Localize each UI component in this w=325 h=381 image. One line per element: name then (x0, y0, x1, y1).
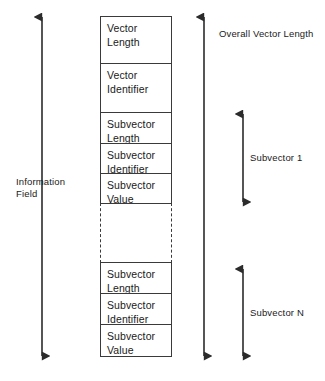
cell-subvector-n-length-line1: Subvector (107, 268, 171, 282)
cell-subvector-n-identifier: Subvector Identifier (100, 293, 172, 325)
label-subvector-n-line1: Subvector N (250, 307, 304, 319)
cell-continuation-gap (100, 203, 172, 263)
cell-vector-identifier-line1: Vector (107, 69, 171, 83)
label-information-field-line1: Information (16, 176, 65, 188)
cell-subvector-1-identifier: Subvector Identifier (100, 143, 172, 174)
label-overall-vector-length: Overall Vector Length (219, 28, 314, 40)
cell-vector-identifier: Vector Identifier (100, 63, 172, 113)
cell-subvector-n-identifier-line1: Subvector (107, 299, 171, 313)
cell-subvector-1-value-line1: Subvector (107, 179, 171, 193)
cell-vector-length-line1: Vector (107, 22, 171, 36)
cell-subvector-n-length: Subvector Length (100, 262, 172, 294)
cell-subvector-1-length-line1: Subvector (107, 118, 171, 132)
cell-subvector-n-value-line2: Value (107, 344, 171, 358)
label-subvector-1: Subvector 1 (250, 152, 302, 164)
cell-subvector-n-value-line1: Subvector (107, 330, 171, 344)
label-overall-vector-length-line1: Overall Vector Length (219, 28, 314, 40)
label-information-field: Information Field (16, 176, 65, 200)
cell-vector-identifier-line2: Identifier (107, 83, 171, 97)
label-information-field-line2: Field (16, 188, 65, 200)
label-subvector-1-line1: Subvector 1 (250, 152, 302, 164)
cell-subvector-1-value: Subvector Value (100, 173, 172, 204)
cell-vector-length: Vector Length (100, 16, 172, 64)
cell-subvector-n-value: Subvector Value (100, 324, 172, 357)
cell-vector-length-line2: Length (107, 36, 171, 50)
label-subvector-n: Subvector N (250, 307, 304, 319)
cell-subvector-1-identifier-line1: Subvector (107, 149, 171, 163)
cell-subvector-1-length: Subvector Length (100, 112, 172, 144)
vector-structure-diagram: Vector Length Vector Identifier Subvecto… (0, 0, 325, 381)
